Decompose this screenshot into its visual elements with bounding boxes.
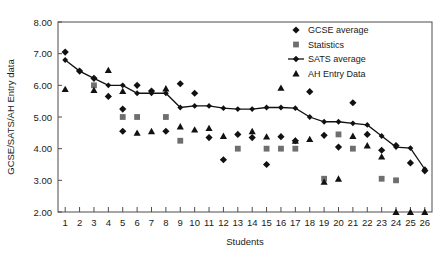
point-sats-average (278, 105, 284, 111)
point-sats-average (206, 103, 212, 109)
legend-marker-line-diamond (293, 56, 299, 62)
point-gcse-average (119, 128, 126, 135)
x-tick-label-25: 25 (405, 217, 416, 228)
point-gcse-average (191, 90, 198, 97)
point-ah-entry-data (205, 125, 212, 131)
point-sats-average (105, 82, 111, 88)
point-ah-entry-data (349, 133, 356, 139)
plot-frame (58, 22, 432, 212)
point-gcse-average (205, 134, 212, 141)
point-statistics (264, 146, 270, 152)
point-statistics (292, 146, 298, 152)
x-tick-label-21: 21 (348, 217, 359, 228)
point-statistics (177, 138, 183, 144)
point-gcse-average (263, 161, 270, 168)
legend-marker-square (293, 42, 299, 48)
point-ah-entry-data (378, 153, 385, 159)
x-tick-label-13: 13 (233, 217, 244, 228)
legend-marker-triangle (292, 70, 299, 76)
legend-item-statistics-label: Statistics (308, 40, 345, 50)
x-tick-label-22: 22 (362, 217, 373, 228)
point-gcse-average (234, 131, 241, 138)
point-ah-entry-data (105, 67, 112, 73)
point-sats-average (307, 114, 313, 120)
y-tick-label-3: 3.00 (34, 175, 53, 186)
x-tick-label-11: 11 (204, 217, 214, 228)
x-tick-label-8: 8 (163, 217, 168, 228)
legend-item-ah-entry-data-label: AH Entry Data (308, 69, 366, 79)
x-tick-label-15: 15 (261, 217, 272, 228)
legend-item-gcse-average-label: GCSE average (308, 25, 369, 35)
point-ah-entry-data (134, 129, 141, 135)
point-ah-entry-data (177, 123, 184, 129)
x-tick-label-6: 6 (134, 217, 139, 228)
x-tick-label-4: 4 (106, 217, 111, 228)
point-statistics (134, 114, 140, 120)
point-ah-entry-data (220, 133, 227, 139)
y-tick-label-6: 6.00 (34, 80, 53, 91)
point-sats-average (120, 82, 126, 88)
x-tick-label-3: 3 (91, 217, 96, 228)
point-ah-entry-data (148, 128, 155, 134)
point-gcse-average (407, 159, 414, 166)
point-statistics (163, 114, 169, 120)
point-ah-entry-data (62, 86, 69, 92)
chart-container: 8.007.006.005.004.003.002.00123456789101… (0, 0, 437, 253)
point-gcse-average (249, 134, 256, 141)
x-axis-title: Students (226, 236, 264, 247)
point-ah-entry-data (335, 175, 342, 181)
chart-canvas: 8.007.006.005.004.003.002.00123456789101… (0, 0, 437, 253)
x-tick-label-7: 7 (149, 217, 154, 228)
point-gcse-average (220, 156, 227, 163)
x-tick-label-10: 10 (189, 217, 200, 228)
point-sats-average (221, 105, 227, 111)
point-ah-entry-data (364, 142, 371, 148)
point-gcse-average (335, 143, 342, 150)
point-sats-average (134, 90, 140, 96)
point-sats-average (292, 105, 298, 111)
point-ah-entry-data (263, 133, 270, 139)
point-ah-entry-data (306, 136, 313, 142)
point-gcse-average (119, 105, 126, 112)
point-ah-entry-data (277, 84, 284, 90)
point-gcse-average (134, 82, 141, 89)
point-sats-average (336, 119, 342, 125)
point-statistics (235, 146, 241, 152)
point-gcse-average (105, 93, 112, 100)
x-tick-label-2: 2 (77, 217, 82, 228)
y-axis-title: GCSE/SATS/AH Entry data (5, 59, 16, 175)
x-tick-label-5: 5 (120, 217, 125, 228)
point-gcse-average (349, 99, 356, 106)
legend-item-sats-average-label: SATS average (308, 54, 366, 64)
point-sats-average (192, 103, 198, 109)
point-gcse-average (177, 80, 184, 87)
point-sats-average (321, 119, 327, 125)
y-tick-label-2: 2.00 (34, 207, 53, 218)
point-gcse-average (321, 132, 328, 139)
point-ah-entry-data (249, 128, 256, 134)
y-tick-label-7: 7.00 (34, 48, 53, 59)
point-statistics (278, 146, 284, 152)
point-gcse-average (62, 48, 69, 55)
point-statistics (336, 132, 342, 138)
x-tick-label-24: 24 (391, 217, 402, 228)
y-tick-label-4: 4.00 (34, 143, 53, 154)
x-tick-label-17: 17 (290, 217, 301, 228)
point-sats-average (350, 120, 356, 126)
x-tick-label-19: 19 (319, 217, 330, 228)
point-gcse-average (378, 147, 385, 154)
point-gcse-average (162, 128, 169, 135)
y-tick-label-8: 8.00 (34, 17, 53, 28)
point-statistics (379, 176, 385, 182)
point-sats-average (235, 106, 241, 112)
x-tick-label-16: 16 (276, 217, 287, 228)
y-tick-label-5: 5.00 (34, 112, 53, 123)
point-gcse-average (306, 88, 313, 95)
x-tick-label-23: 23 (376, 217, 387, 228)
x-tick-label-12: 12 (218, 217, 229, 228)
x-tick-label-9: 9 (178, 217, 183, 228)
legend-marker-diamond (292, 26, 299, 33)
x-tick-label-14: 14 (247, 217, 258, 228)
point-sats-average (249, 106, 255, 112)
series-line-sats-average (65, 60, 425, 169)
